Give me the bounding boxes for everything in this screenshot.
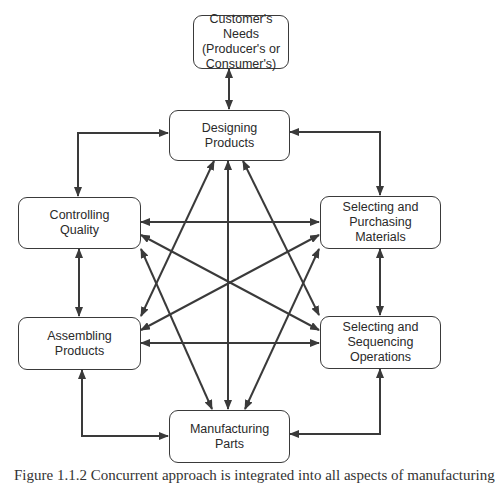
node-designing-products-label: Designing Products [202, 121, 258, 151]
node-customers-needs: Customer's Needs (Producer's or Consumer… [193, 15, 289, 69]
edge-assembling-manufacturing [82, 370, 168, 436]
node-manufacturing-parts-label: Manufacturing Parts [190, 422, 269, 452]
edge-sequencing-manufacturing [290, 369, 380, 434]
edge-designing-assembling [141, 161, 214, 316]
edge-designing-controlling [78, 133, 168, 196]
node-selecting-purchasing: Selecting and Purchasing Materials [320, 196, 441, 249]
node-controlling-quality: Controlling Quality [18, 197, 141, 249]
edge-purchasing-manufacturing [245, 249, 319, 409]
node-manufacturing-parts: Manufacturing Parts [169, 410, 290, 463]
node-designing-products: Designing Products [169, 110, 290, 161]
figure-caption: Figure 1.1.2 Concurrent approach is inte… [14, 466, 495, 484]
node-assembling-products: Assembling Products [18, 317, 141, 370]
node-controlling-quality-label: Controlling Quality [50, 208, 110, 238]
node-assembling-products-label: Assembling Products [47, 329, 112, 359]
edge-designing-purchasing [290, 132, 380, 195]
edge-controlling-manufacturing [141, 249, 212, 409]
node-selecting-purchasing-label: Selecting and Purchasing Materials [343, 200, 419, 245]
node-selecting-sequencing-label: Selecting and Sequencing Operations [343, 320, 419, 365]
node-selecting-sequencing: Selecting and Sequencing Operations [320, 316, 441, 369]
node-customers-needs-label: Customer's Needs (Producer's or Consumer… [194, 12, 288, 72]
edge-designing-sequencing [243, 161, 319, 315]
